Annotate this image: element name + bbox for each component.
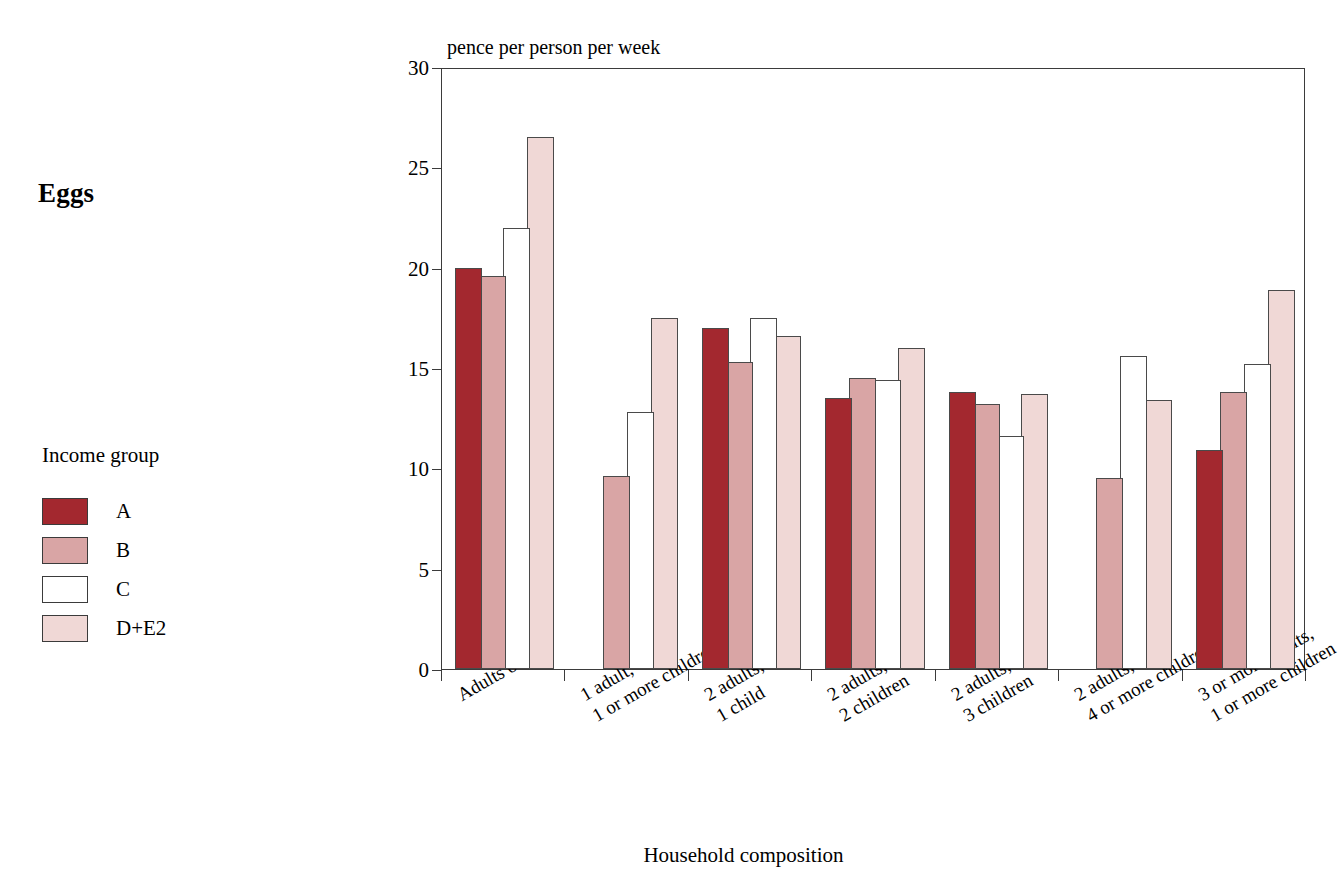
y-tick-mark [432,269,441,270]
bar-b-g5 [973,404,1000,669]
bar-b-g1 [479,276,506,669]
bar-de2-g3 [774,336,801,669]
bar-de2-g5 [1021,394,1048,669]
bar-b-g2 [603,476,630,669]
y-axis-title: pence per person per week [447,36,660,59]
bar-c-g3 [750,318,777,669]
bar-b-g4 [849,378,876,669]
bar-de2-g4 [898,348,925,669]
bar-a-g7 [1196,450,1223,669]
bar-c-g2 [627,412,654,669]
y-tick-label: 5 [385,557,429,582]
y-tick-label: 30 [385,56,429,81]
x-tick-mark [935,670,936,681]
x-tick-mark [564,670,565,681]
x-axis-title: Household composition [0,843,1339,868]
y-tick-label: 25 [385,156,429,181]
y-tick-mark [432,168,441,169]
bar-b-g6 [1096,478,1123,669]
bar-a-g4 [825,398,852,669]
chart-canvas: pence per person per week 051015202530 A… [0,0,1339,893]
bar-c-g1 [503,228,530,669]
x-tick-mark [811,670,812,681]
y-tick-label: 0 [385,658,429,683]
bar-de2-g7 [1268,290,1295,669]
bar-c-g4 [874,380,901,669]
x-tick-mark [1058,670,1059,681]
x-tick-mark [441,670,442,681]
bar-c-g7 [1244,364,1271,669]
y-tick-mark [432,570,441,571]
x-axis-title-text: Household composition [643,843,843,868]
y-tick-label: 15 [385,357,429,382]
plot-area [441,68,1305,670]
bar-b-g7 [1220,392,1247,669]
bar-c-g6 [1120,356,1147,669]
y-tick-mark [432,670,441,671]
y-tick-label: 10 [385,457,429,482]
bar-b-g3 [726,362,753,669]
bar-de2-g1 [527,137,554,669]
y-tick-mark [432,469,441,470]
y-tick-label: 20 [385,256,429,281]
y-tick-mark [432,369,441,370]
bar-a-g1 [455,268,482,669]
bar-de2-g2 [651,318,678,669]
y-tick-mark [432,68,441,69]
bar-de2-g6 [1144,400,1171,669]
bar-c-g5 [997,436,1024,669]
bar-a-g5 [949,392,976,669]
bar-a-g3 [702,328,729,669]
